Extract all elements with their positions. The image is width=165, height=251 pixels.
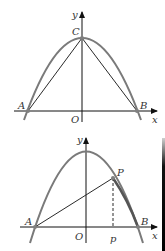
arc-PB — [113, 178, 138, 227]
label-O-2: O — [75, 231, 83, 242]
page-edge-bar — [162, 138, 165, 251]
label-A-2: A — [24, 216, 32, 227]
label-A-1: A — [17, 100, 25, 111]
point-B-1 — [135, 109, 139, 113]
label-y-1: y — [71, 9, 78, 20]
label-p: p — [110, 233, 117, 244]
point-A-2 — [33, 225, 37, 229]
label-O-1: O — [71, 114, 79, 125]
segment-BC — [82, 38, 137, 111]
label-B-2: B — [140, 216, 148, 227]
segment-AC — [28, 38, 82, 111]
point-B-2 — [136, 225, 140, 229]
segment-AP — [35, 178, 113, 227]
label-P: P — [116, 167, 124, 178]
label-x-1: x — [152, 114, 158, 125]
figure-2: y P A B O p x — [20, 134, 158, 244]
point-C — [80, 36, 84, 40]
point-A-1 — [26, 109, 30, 113]
figure-1: y C A B O x — [14, 9, 158, 125]
point-P — [111, 176, 115, 180]
label-B-1: B — [139, 100, 147, 111]
label-x-2: x — [152, 230, 158, 241]
diagram-canvas: y C A B O x y P A B O p x — [0, 0, 165, 251]
label-y-2: y — [76, 134, 83, 145]
label-C: C — [72, 26, 80, 37]
